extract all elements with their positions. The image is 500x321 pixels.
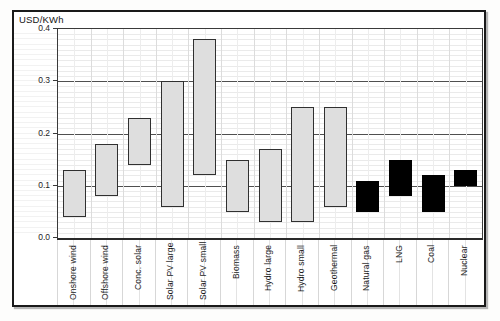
x-category-cell: Hydro small <box>285 240 318 305</box>
y-axis-tick-labels: 0.00.10.20.30.4 <box>14 12 53 305</box>
x-category-cell: LNG <box>383 240 416 305</box>
y-tick-label: 0.0 <box>38 233 50 242</box>
x-category-label-geothermal: Geothermal <box>330 240 339 305</box>
y-tick-label: 0.4 <box>38 24 50 33</box>
x-category-label-offshore-wind: Offshore wind <box>101 240 110 305</box>
x-category-label-conc-solar: Conc. solar <box>134 240 143 305</box>
y-tick-mark <box>53 28 57 29</box>
x-category-label-solar-pv-large: Solar PV large <box>166 240 175 305</box>
x-category-label-natural-gas: Natural gas <box>362 240 371 305</box>
bar-biomass <box>226 160 249 212</box>
bar-coal <box>422 175 445 212</box>
x-category-label-onshore-wind: Onshore wind <box>69 240 78 305</box>
x-category-label-solar-pv-small: Solar PV small <box>199 240 208 305</box>
bar-nuclear <box>454 170 477 186</box>
x-category-cell: Solar PV small <box>187 240 220 305</box>
x-category-cell: Solar PV large <box>155 240 188 305</box>
x-category-cell: Nuclear <box>448 240 481 305</box>
bar-geothermal <box>324 107 347 206</box>
x-axis-labels: Onshore windOffshore windConc. solarSola… <box>57 240 481 305</box>
scanned-chart-page: { "chart_data": { "type": "bar", "subtyp… <box>0 0 500 321</box>
x-category-cell: Conc. solar <box>122 240 155 305</box>
y-tick-label: 0.1 <box>38 181 50 190</box>
bar-onshore-wind <box>63 170 86 217</box>
y-tick-mark <box>53 185 57 186</box>
x-category-cell: Geothermal <box>318 240 351 305</box>
x-category-cell: Hydro large <box>253 240 286 305</box>
plot-area <box>57 28 483 240</box>
bar-solar-pv-small <box>193 39 216 175</box>
x-category-cell: Biomass <box>220 240 253 305</box>
chart-figure: USD/KWh 0.00.10.20.30.4 Onshore windOffs… <box>12 10 486 307</box>
bar-solar-pv-large <box>161 81 184 206</box>
bar-hydro-large <box>259 149 282 222</box>
bar-hydro-small <box>291 107 314 222</box>
x-category-label-nuclear: Nuclear <box>460 240 469 305</box>
y-tick-label: 0.2 <box>38 129 50 138</box>
y-tick-mark <box>53 80 57 81</box>
y-tick-label: 0.3 <box>38 76 50 85</box>
x-category-label-hydro-large: Hydro large <box>264 240 273 305</box>
x-category-cell: Offshore wind <box>90 240 123 305</box>
bar-conc-solar <box>128 118 151 165</box>
y-tick-mark <box>53 133 57 134</box>
x-category-cell: Onshore wind <box>57 240 90 305</box>
x-category-label-lng: LNG <box>395 240 404 305</box>
bar-natural-gas <box>356 181 379 212</box>
x-category-label-biomass: Biomass <box>232 240 241 305</box>
x-category-label-coal: Coal <box>427 240 436 305</box>
y-tick-mark <box>53 237 57 238</box>
x-category-cell: Coal <box>416 240 449 305</box>
x-category-cell: Natural gas <box>351 240 384 305</box>
bar-lng <box>389 160 412 197</box>
bars-layer <box>58 29 482 238</box>
x-category-label-hydro-small: Hydro small <box>297 240 306 305</box>
bar-offshore-wind <box>95 144 118 196</box>
